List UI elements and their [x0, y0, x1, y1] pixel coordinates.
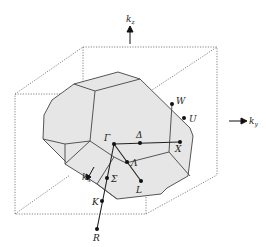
ky-label: ky	[249, 116, 258, 128]
point-gamma	[112, 142, 116, 146]
ky-arrowhead-icon	[241, 118, 247, 124]
label-x: X	[174, 144, 182, 154]
point-u	[182, 116, 186, 120]
label-w: W	[176, 96, 186, 106]
brillouin-zone-diagram: kz ky kx Γ Δ X Λ L Σ K R W U	[0, 0, 266, 247]
label-sigma: Σ	[110, 174, 118, 184]
point-l	[139, 179, 143, 183]
label-k: K	[91, 197, 100, 207]
point-sigma	[105, 176, 109, 180]
point-w	[170, 102, 174, 106]
label-r: R	[92, 233, 100, 243]
truncated-octahedron	[43, 72, 193, 199]
kz-label: kz	[126, 14, 135, 25]
label-gamma: Γ	[103, 133, 111, 143]
kz-arrowhead-icon	[127, 26, 133, 32]
point-r	[95, 227, 99, 231]
point-lambda	[125, 160, 129, 164]
label-lambda: Λ	[130, 158, 138, 168]
label-l: L	[135, 185, 142, 195]
label-u: U	[189, 114, 197, 124]
label-delta: Δ	[135, 130, 143, 140]
point-k	[100, 199, 104, 203]
point-delta	[138, 141, 142, 145]
